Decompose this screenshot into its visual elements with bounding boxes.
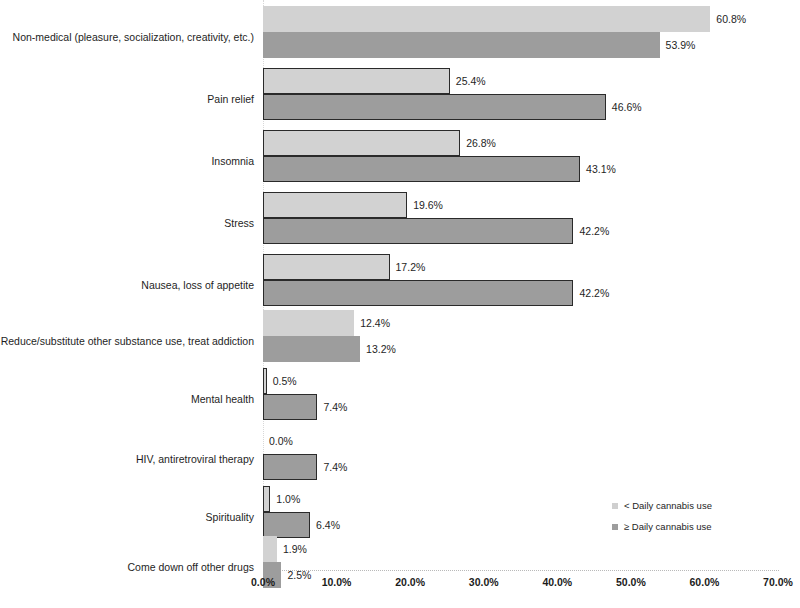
chart-bar (263, 454, 317, 480)
bar-container: 17.2% (263, 254, 778, 280)
bar-value-label: 1.0% (276, 493, 300, 505)
category-label: Mental health (0, 393, 254, 405)
x-axis-tick-label: 50.0% (596, 576, 666, 588)
chart-bar (263, 336, 360, 362)
x-axis-tick-label: 0.0% (228, 576, 298, 588)
chart-bar (263, 192, 407, 218)
bar-value-label: 25.4% (456, 75, 486, 87)
x-axis-tick-label: 20.0% (375, 576, 445, 588)
legend-label: < Daily cannabis use (624, 500, 712, 511)
bar-container: 26.8% (263, 130, 778, 156)
bar-value-label: 1.9% (283, 543, 307, 555)
bar-container: 0.5% (263, 368, 778, 394)
legend-item: ≥ Daily cannabis use (612, 521, 712, 532)
bar-value-label: 6.4% (316, 519, 340, 531)
x-axis-tick-label: 10.0% (302, 576, 372, 588)
legend-swatch-icon (612, 524, 618, 530)
bar-container: 42.2% (263, 218, 778, 244)
bar-value-label: 7.4% (323, 401, 347, 413)
chart-bar (263, 218, 573, 244)
chart-bar (263, 310, 354, 336)
bar-container: 60.8% (263, 6, 778, 32)
bar-value-label: 19.6% (413, 199, 443, 211)
category-label: Non-medical (pleasure, socialization, cr… (0, 31, 254, 43)
bar-value-label: 12.4% (360, 317, 390, 329)
bar-container: 42.2% (263, 280, 778, 306)
chart-bar (263, 280, 573, 306)
bar-container: 46.6% (263, 94, 778, 120)
bar-container: 43.1% (263, 156, 778, 182)
chart-bar (263, 536, 277, 562)
bar-value-label: 46.6% (612, 101, 642, 113)
category-label: Insomnia (0, 155, 254, 167)
bar-container: 7.4% (263, 454, 778, 480)
chart-bar (263, 254, 390, 280)
bar-value-label: 43.1% (586, 163, 616, 175)
chart-bar (263, 368, 267, 394)
chart-bar (263, 6, 710, 32)
x-axis-tick-label: 60.0% (669, 576, 739, 588)
category-label: Stress (0, 217, 254, 229)
horizontal-bar-chart: Non-medical (pleasure, socialization, cr… (0, 0, 800, 608)
bar-value-label: 7.4% (323, 461, 347, 473)
bar-container: 0.0% (263, 428, 778, 454)
bar-value-label: 53.9% (666, 39, 696, 51)
x-axis-tick-label: 40.0% (522, 576, 592, 588)
x-axis-tick-label: 70.0% (743, 576, 800, 588)
bar-value-label: 60.8% (716, 13, 746, 25)
bar-value-label: 26.8% (466, 137, 496, 149)
chart-bar (263, 512, 310, 538)
bar-value-label: 0.5% (273, 375, 297, 387)
chart-bar (263, 68, 450, 94)
category-label: Reduce/substitute other substance use, t… (0, 335, 254, 347)
bar-value-label: 17.2% (396, 261, 426, 273)
bar-value-label: 0.0% (269, 435, 293, 447)
chart-bar (263, 94, 606, 120)
bar-container: 53.9% (263, 32, 778, 58)
bar-container: 13.2% (263, 336, 778, 362)
x-axis-tick-label: 30.0% (449, 576, 519, 588)
bar-value-label: 42.2% (579, 225, 609, 237)
legend-swatch-icon (612, 503, 618, 509)
category-label: Come down off other drugs (0, 561, 254, 573)
chart-bar (263, 486, 270, 512)
bar-value-label: 42.2% (579, 287, 609, 299)
bar-container: 25.4% (263, 68, 778, 94)
category-label: Pain relief (0, 93, 254, 105)
category-label: Spirituality (0, 511, 254, 523)
bar-container: 7.4% (263, 394, 778, 420)
chart-legend: < Daily cannabis use≥ Daily cannabis use (612, 500, 712, 542)
category-label: Nausea, loss of appetite (0, 279, 254, 291)
chart-bar (263, 32, 660, 58)
legend-item: < Daily cannabis use (612, 500, 712, 511)
chart-bar (263, 130, 460, 156)
chart-bar (263, 156, 580, 182)
bar-container: 19.6% (263, 192, 778, 218)
legend-label: ≥ Daily cannabis use (624, 521, 712, 532)
bar-container: 12.4% (263, 310, 778, 336)
chart-bar (263, 394, 317, 420)
category-label: HIV, antiretroviral therapy (0, 453, 254, 465)
bar-value-label: 13.2% (366, 343, 396, 355)
